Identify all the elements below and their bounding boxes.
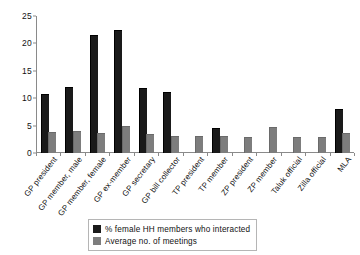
bar (195, 136, 203, 153)
bar (318, 137, 326, 153)
chart-legend: % female HH members who interacted Avera… (88, 219, 257, 251)
bar (97, 133, 105, 153)
legend-label: Average no. of meetings (105, 237, 197, 246)
bar-chart-figure: 0510152025 GP presidentGP member, maleGP… (0, 0, 360, 255)
legend-item: % female HH members who interacted (93, 223, 250, 235)
legend-item: Average no. of meetings (93, 235, 250, 247)
legend-label: % female HH members who interacted (105, 225, 250, 234)
plot-area: 0510152025 (36, 16, 354, 153)
legend-swatch-icon (93, 225, 101, 233)
x-axis-tick-mark (354, 153, 355, 156)
x-axis-labels: GP presidentGP member, maleGP member, fe… (36, 153, 354, 213)
bar (171, 136, 179, 153)
bars-layer (36, 16, 354, 153)
bar (73, 131, 81, 153)
legend-swatch-icon (93, 237, 101, 245)
bar (220, 136, 228, 153)
bar (342, 133, 350, 153)
bar (269, 127, 277, 153)
bar (244, 137, 252, 153)
x-axis-label: GP member, male (36, 155, 84, 212)
bar (293, 137, 301, 153)
bar (146, 134, 154, 153)
x-axis-label: MLA (335, 155, 352, 174)
bar (48, 132, 56, 153)
bar (122, 126, 130, 153)
